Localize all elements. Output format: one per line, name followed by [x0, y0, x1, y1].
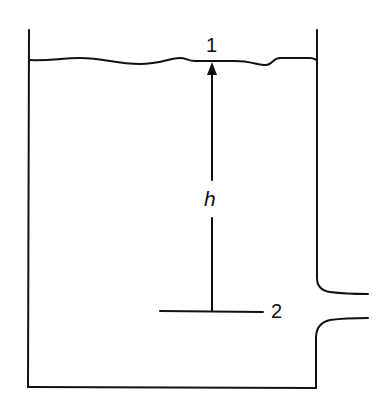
label-point-1: 1	[206, 34, 217, 56]
label-head-h: h	[204, 187, 216, 210]
water-surface	[29, 58, 317, 65]
arrow-up-icon	[207, 62, 217, 75]
tank-right-wall-lower	[316, 318, 368, 388]
tank-right-wall-upper	[317, 30, 368, 294]
label-point-2: 2	[271, 300, 282, 322]
tank-left-wall	[28, 30, 29, 387]
tank-bottom	[28, 387, 316, 388]
tank-diagram: 1 h 2	[0, 0, 390, 406]
datum-line	[160, 311, 263, 312]
